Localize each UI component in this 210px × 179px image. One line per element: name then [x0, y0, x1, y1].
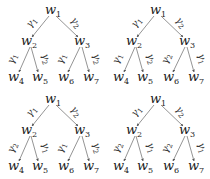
- node-w2: w2: [126, 123, 142, 139]
- node-w4: w4: [8, 159, 24, 175]
- tree-top-left: w1 w2 w3 w4 w5 w6 w7 γ1 γ2 γ1 γ2 γ1 γ2: [0, 0, 105, 89]
- symbol: w: [58, 158, 69, 173]
- subscript: 1: [56, 10, 61, 19]
- node-w6: w6: [58, 70, 74, 86]
- symbol: w: [8, 69, 19, 84]
- node-w7: w7: [83, 70, 99, 86]
- edge-w3-w6: [173, 47, 185, 72]
- tree-top-right: w1 w2 w3 w4 w5 w6 w7 γ1 γ2 γ1 γ2 γ2 γ1: [105, 0, 210, 89]
- subscript: 7: [94, 77, 99, 86]
- node-w3: w3: [179, 123, 195, 139]
- subscript: 1: [161, 99, 166, 108]
- subscript: 6: [69, 77, 74, 86]
- subscript: 3: [85, 41, 90, 50]
- symbol: w: [21, 33, 32, 48]
- symbol: w: [8, 158, 19, 173]
- node-w1: w1: [45, 92, 61, 108]
- subscript: 2: [137, 130, 142, 139]
- symbol: w: [163, 69, 174, 84]
- subscript: 1: [161, 10, 166, 19]
- symbol: w: [163, 158, 174, 173]
- symbol: w: [21, 122, 32, 137]
- node-w1: w1: [150, 3, 166, 19]
- symbol: w: [126, 33, 137, 48]
- subscript: 5: [148, 166, 153, 175]
- node-w7: w7: [188, 70, 204, 86]
- symbol: w: [113, 158, 124, 173]
- subscript: 4: [124, 166, 129, 175]
- symbol: w: [32, 69, 43, 84]
- symbol: w: [83, 69, 94, 84]
- edge-w3-w6: [68, 136, 80, 161]
- tree-bottom-right: w1 w2 w3 w4 w5 w6 w7 γ1 γ2 γ2 γ1 γ2 γ1: [105, 89, 210, 178]
- node-w5: w5: [137, 159, 153, 175]
- symbol: w: [45, 91, 56, 106]
- node-w1: w1: [45, 3, 61, 19]
- node-w2: w2: [21, 34, 37, 50]
- edge-w2-w4: [124, 136, 135, 161]
- symbol: w: [32, 158, 43, 173]
- symbol: w: [58, 69, 69, 84]
- symbol: w: [188, 69, 199, 84]
- node-w6: w6: [163, 70, 179, 86]
- symbol: w: [83, 158, 94, 173]
- subscript: 6: [69, 166, 74, 175]
- tree-bottom-left: w1 w2 w3 w4 w5 w6 w7 γ1 γ2 γ2 γ1 γ1 γ2: [0, 89, 105, 178]
- edge-w2-w4: [19, 136, 30, 161]
- symbol: w: [137, 69, 148, 84]
- subscript: 7: [199, 166, 204, 175]
- node-w3: w3: [74, 34, 90, 50]
- node-w4: w4: [8, 70, 24, 86]
- subscript: 5: [43, 77, 48, 86]
- subscript: 2: [32, 130, 37, 139]
- node-w2: w2: [126, 34, 142, 50]
- node-w4: w4: [113, 70, 129, 86]
- symbol: w: [179, 122, 190, 137]
- symbol: w: [179, 33, 190, 48]
- node-w3: w3: [74, 123, 90, 139]
- edge-w3-w6: [173, 136, 185, 161]
- subscript: 4: [19, 166, 24, 175]
- symbol: w: [126, 122, 137, 137]
- subscript: 3: [190, 41, 195, 50]
- subscript: 2: [137, 41, 142, 50]
- subscript: 7: [199, 77, 204, 86]
- node-w5: w5: [32, 159, 48, 175]
- subscript: 5: [148, 77, 153, 86]
- symbol: w: [137, 158, 148, 173]
- edge-w2-w4: [19, 47, 30, 72]
- subscript: 2: [32, 41, 37, 50]
- node-w4: w4: [113, 159, 129, 175]
- symbol: w: [113, 69, 124, 84]
- node-w3: w3: [179, 34, 195, 50]
- node-w6: w6: [58, 159, 74, 175]
- node-w7: w7: [83, 159, 99, 175]
- edge-w2-w4: [124, 47, 135, 72]
- subscript: 3: [85, 130, 90, 139]
- subscript: 4: [19, 77, 24, 86]
- symbol: w: [150, 91, 161, 106]
- node-w5: w5: [32, 70, 48, 86]
- edge-w3-w6: [68, 47, 80, 72]
- node-w2: w2: [21, 123, 37, 139]
- node-w6: w6: [163, 159, 179, 175]
- symbol: w: [45, 2, 56, 17]
- subscript: 1: [56, 99, 61, 108]
- node-w5: w5: [137, 70, 153, 86]
- symbol: w: [74, 33, 85, 48]
- subscript: 7: [94, 166, 99, 175]
- subscript: 6: [174, 166, 179, 175]
- node-w1: w1: [150, 92, 166, 108]
- subscript: 5: [43, 166, 48, 175]
- subscript: 4: [124, 77, 129, 86]
- symbol: w: [188, 158, 199, 173]
- subscript: 3: [190, 130, 195, 139]
- subscript: 6: [174, 77, 179, 86]
- node-w7: w7: [188, 159, 204, 175]
- symbol: w: [150, 2, 161, 17]
- symbol: w: [74, 122, 85, 137]
